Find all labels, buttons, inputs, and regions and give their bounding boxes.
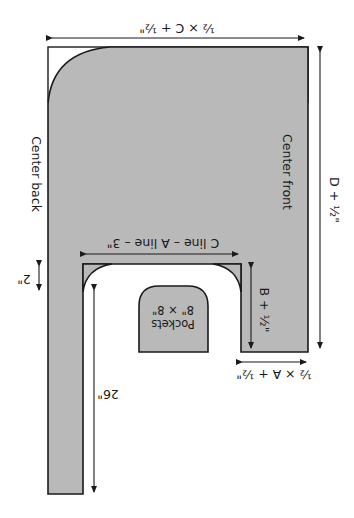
label-notch-width: C line – A line – 3" <box>107 236 219 251</box>
label-bottom-width: ½ × A + ½" <box>236 367 311 382</box>
pattern-diagram: ½ × C + ½" Center back Center front D + … <box>0 0 354 518</box>
notch-corner-left <box>83 264 112 292</box>
label-top-width: ½ × C + ½" <box>139 21 215 36</box>
label-center-back: Center back <box>29 136 44 213</box>
pattern-svg: ½ × C + ½" Center back Center front D + … <box>0 0 354 518</box>
label-pocket-size: 8" × 8" <box>152 303 194 317</box>
label-center-front: Center front <box>280 134 295 210</box>
label-right-height: D + ½" <box>327 177 342 223</box>
label-notch-depth: B + ½" <box>257 288 272 333</box>
label-pocket-title: Pockets <box>151 317 195 331</box>
label-strip-length: 26" <box>97 387 119 402</box>
label-strip-width: 2" <box>17 272 31 287</box>
notch-corner-right <box>213 264 241 292</box>
